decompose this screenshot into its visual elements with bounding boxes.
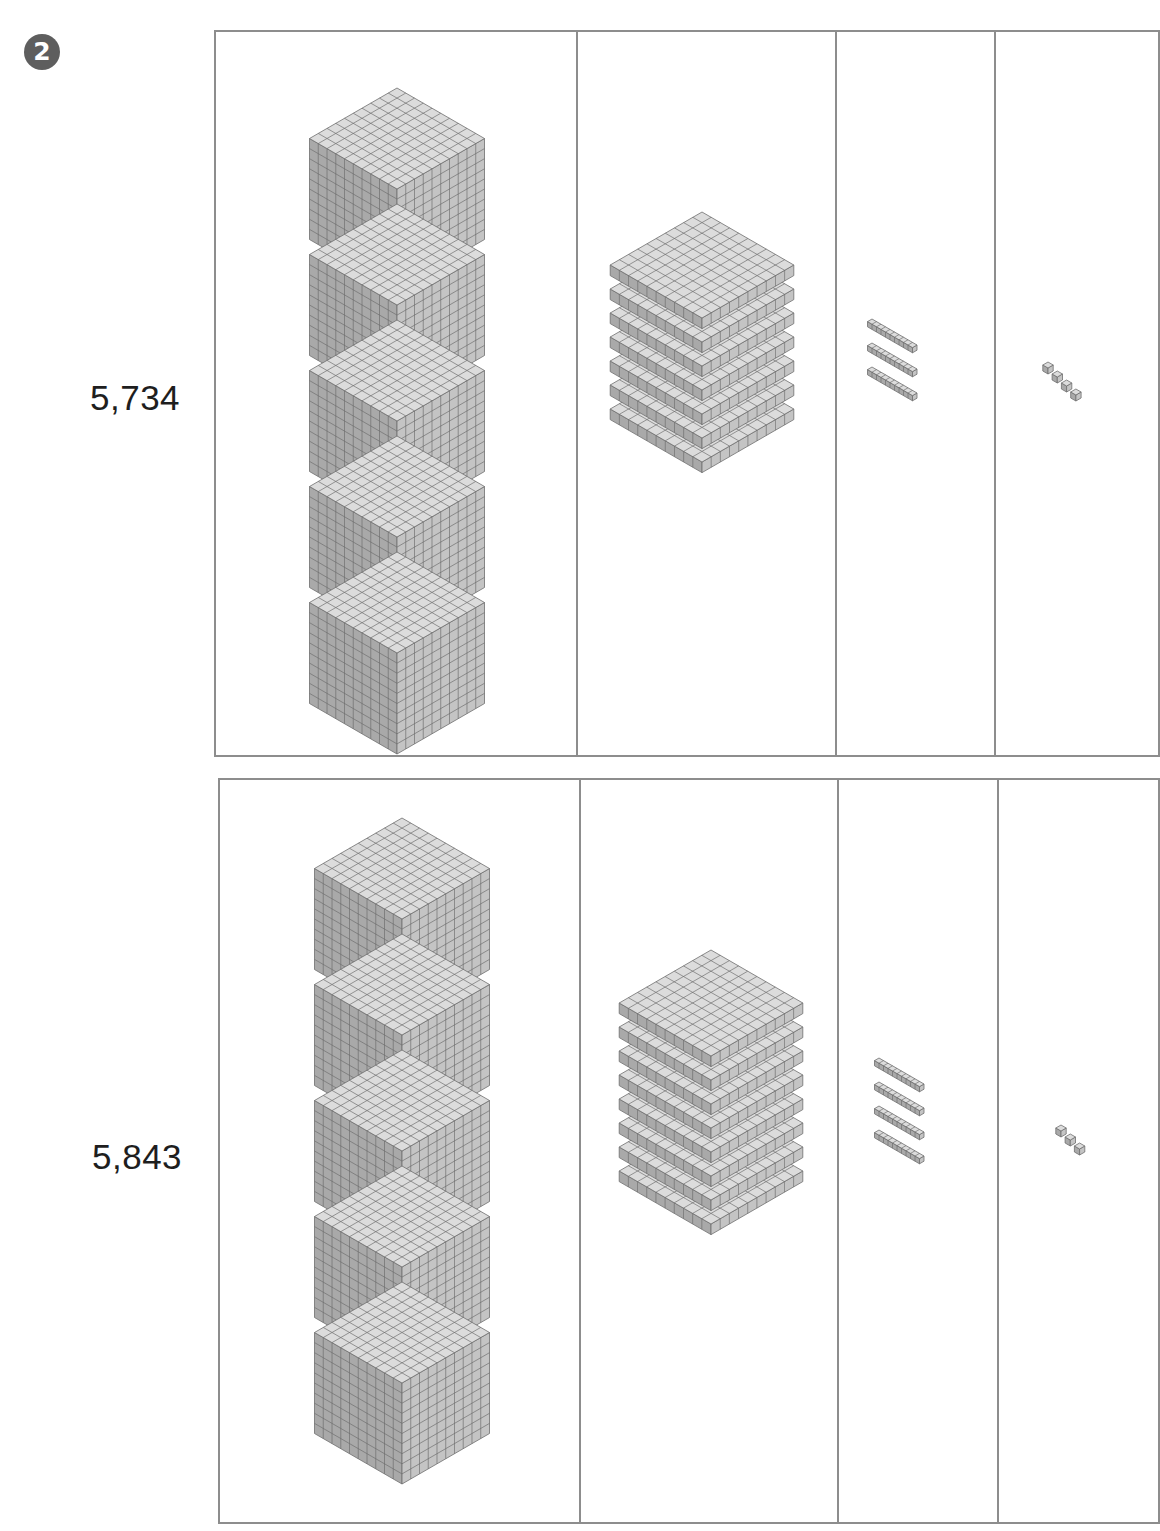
hundreds-flats-icon <box>578 32 835 755</box>
ones-units-icon <box>996 32 1158 755</box>
unit-cube-icon <box>1061 380 1071 392</box>
ones-units-icon <box>999 780 1158 1522</box>
unit-cube-icon <box>1074 1143 1084 1155</box>
row-1-base-ten-table <box>214 30 1160 757</box>
unit-cube-icon <box>1043 362 1053 374</box>
thousands-cubes-icon <box>216 32 576 755</box>
hundreds-flats-icon <box>581 780 837 1522</box>
row-2-number-label: 5,843 <box>92 1137 182 1177</box>
unit-cube-icon <box>1056 1125 1066 1137</box>
row-2-ones-cell <box>999 780 1158 1522</box>
row-1-tens-cell <box>837 32 996 755</box>
row-2-base-ten-table <box>218 778 1160 1524</box>
thousands-cubes-icon <box>220 780 579 1522</box>
row-2-tens-cell <box>839 780 999 1522</box>
row-2-hundreds-cell <box>581 780 839 1522</box>
tens-rods-icon <box>839 780 997 1522</box>
unit-cube-icon <box>1052 371 1062 383</box>
exercise-number-badge: 2 <box>24 34 60 70</box>
row-1-hundreds-cell <box>578 32 837 755</box>
unit-cube-icon <box>1065 1134 1075 1146</box>
row-1-thousands-cell <box>216 32 578 755</box>
row-2-thousands-cell <box>220 780 581 1522</box>
tens-rods-icon <box>837 32 994 755</box>
unit-cube-icon <box>1071 389 1081 401</box>
row-1-number-label: 5,734 <box>90 378 180 418</box>
row-1-ones-cell <box>996 32 1158 755</box>
